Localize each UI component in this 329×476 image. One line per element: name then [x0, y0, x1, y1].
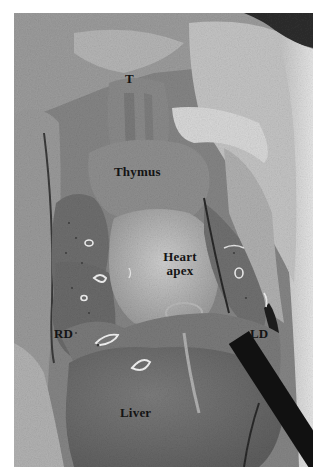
label-heart: Heart	[155, 250, 205, 263]
label-trachea: T	[125, 72, 134, 85]
label-thymus: Thymus	[114, 165, 161, 178]
anatomical-photo: T Thymus Heart apex RD LD Liver	[14, 13, 313, 467]
label-liver: Liver	[120, 406, 151, 419]
label-right-diaphragm: RD	[54, 327, 73, 340]
label-heart-apex: Heart apex	[155, 250, 205, 277]
label-left-diaphragm: LD	[250, 327, 268, 340]
heart-apex-arrow-icon	[194, 275, 313, 467]
